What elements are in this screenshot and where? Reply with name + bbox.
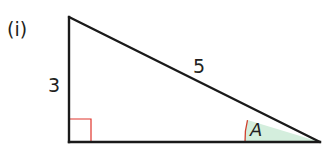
triangle-diagram: (i) 3 5 A — [0, 0, 334, 158]
right-angle-marker — [69, 119, 91, 142]
vertical-leg-label: 3 — [48, 74, 60, 96]
angle-a-label: A — [249, 119, 262, 140]
hypotenuse — [69, 17, 320, 142]
hypotenuse-label: 5 — [193, 55, 205, 77]
part-label: (i) — [7, 18, 27, 40]
